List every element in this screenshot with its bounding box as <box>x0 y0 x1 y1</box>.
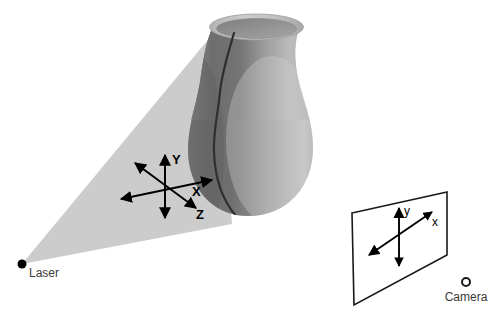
camera-image-plane: y x <box>352 192 447 305</box>
image-axis-label-x: x <box>432 215 438 229</box>
laser-source: Laser <box>18 260 60 281</box>
world-axis-label-z: Z <box>196 207 204 222</box>
camera-circle-icon <box>462 278 470 286</box>
world-axis-label-y: Y <box>172 152 181 167</box>
laser-dot-icon <box>18 260 27 269</box>
camera-device: Camera <box>445 278 488 304</box>
camera-label: Camera <box>445 290 488 304</box>
laser-label: Laser <box>29 266 59 280</box>
laser-scanning-diagram: Y X Z Laser y x Camera <box>0 0 501 331</box>
vase-rim-opening <box>217 19 297 39</box>
world-axis-label-x: X <box>192 184 201 199</box>
image-axis-label-y: y <box>404 204 410 218</box>
